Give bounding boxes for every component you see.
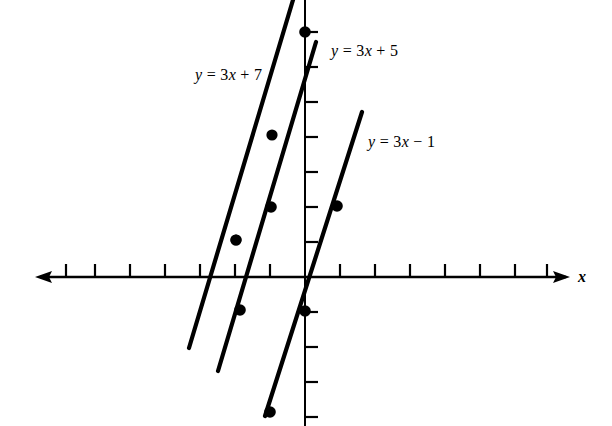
line-2-point-3 <box>234 304 246 316</box>
x-axis-ticks-negative <box>66 264 270 277</box>
label-3-eq: = 3 <box>375 133 401 150</box>
label-1-tail: + 7 <box>236 66 262 83</box>
x-axis-label: x <box>578 268 586 286</box>
label-3-x: x <box>402 133 409 150</box>
label-2-eq: = 3 <box>338 42 364 59</box>
line-1-point-2 <box>266 129 277 140</box>
line-2-point-intercept <box>299 26 311 38</box>
line-3-point-intercept <box>299 305 311 317</box>
equation-label-line-2: y = 3x + 5 <box>331 42 398 60</box>
label-2-x: x <box>365 42 372 59</box>
line-3-point-1 <box>331 200 343 212</box>
line-1-point-1-dup <box>230 234 241 245</box>
x-axis-ticks-positive <box>340 264 547 277</box>
label-2-tail: + 5 <box>372 42 398 59</box>
line-2-point-2 <box>265 201 277 213</box>
graph-figure: y = 3x + 7 y = 3x + 5 y = 3x − 1 x <box>0 0 612 426</box>
y-axis-ticks-negative <box>305 312 318 417</box>
equation-label-line-3: y = 3x − 1 <box>368 133 435 151</box>
line-y-3x-minus-1 <box>264 112 362 418</box>
label-1-eq: = 3 <box>202 66 228 83</box>
coordinate-plane <box>0 0 612 426</box>
equation-label-line-1: y = 3x + 7 <box>195 66 262 84</box>
label-1-x: x <box>229 66 236 83</box>
label-3-tail: − 1 <box>409 133 435 150</box>
line-3-point-3 <box>264 406 276 418</box>
x-axis <box>35 264 570 283</box>
